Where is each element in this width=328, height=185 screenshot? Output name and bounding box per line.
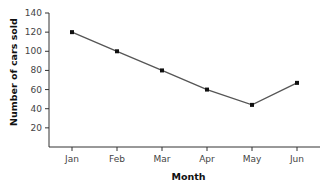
data-point-marker xyxy=(295,81,299,85)
series-line xyxy=(72,32,297,105)
x-tick-label: Apr xyxy=(199,154,215,164)
y-tick-label: 80 xyxy=(31,65,43,75)
y-tick-label: 120 xyxy=(25,27,42,37)
y-tick-label: 60 xyxy=(31,85,43,95)
data-point-marker xyxy=(250,103,254,107)
x-tick-label: Jan xyxy=(64,154,79,164)
x-tick-label: Jun xyxy=(289,154,304,164)
x-tick-label: May xyxy=(243,154,262,164)
x-axis-title: Month xyxy=(171,171,205,182)
data-point-marker xyxy=(160,68,164,72)
y-axis-title: Number of cars sold xyxy=(8,18,19,126)
y-tick-label: 100 xyxy=(25,46,42,56)
y-tick-label: 140 xyxy=(25,8,42,18)
x-axis: JanFebMarAprMayJun xyxy=(49,147,320,164)
data-series xyxy=(70,30,299,107)
y-tick-label: 20 xyxy=(31,123,43,133)
x-tick-label: Feb xyxy=(109,154,125,164)
x-tick-label: Mar xyxy=(154,154,171,164)
line-chart: 20406080100120140 JanFebMarAprMayJun Mon… xyxy=(0,0,328,185)
y-axis: 20406080100120140 xyxy=(25,8,49,147)
data-point-marker xyxy=(70,30,74,34)
data-point-marker xyxy=(115,49,119,53)
y-tick-label: 40 xyxy=(31,104,43,114)
data-point-marker xyxy=(205,88,209,92)
